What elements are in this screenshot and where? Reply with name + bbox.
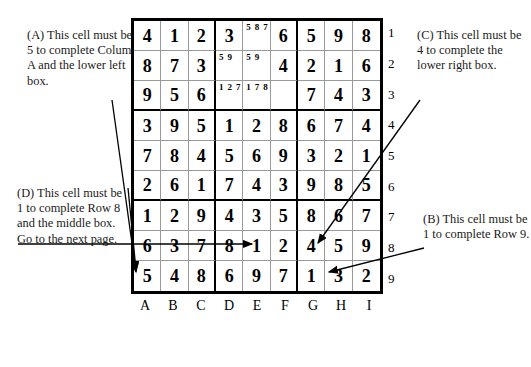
- sudoku-cell-A5[interactable]: 7: [134, 141, 161, 171]
- sudoku-cell-G7[interactable]: 8: [298, 201, 325, 231]
- sudoku-cell-F5[interactable]: 9: [271, 141, 298, 171]
- sudoku-cell-F2[interactable]: 4: [271, 51, 298, 81]
- sudoku-cell-B9[interactable]: 4: [161, 261, 188, 291]
- sudoku-cell-G9[interactable]: 1: [298, 261, 325, 291]
- sudoku-cell-E1[interactable]: 587: [243, 21, 270, 51]
- sudoku-cell-I4[interactable]: 4: [353, 111, 380, 141]
- sudoku-cell-H6[interactable]: 8: [325, 171, 352, 201]
- sudoku-cell-H1[interactable]: 9: [325, 21, 352, 51]
- sudoku-cell-D3[interactable]: 127: [216, 81, 243, 111]
- sudoku-cell-D8[interactable]: 8: [216, 231, 243, 261]
- sudoku-cell-E2[interactable]: 59: [243, 51, 270, 81]
- sudoku-cell-C7[interactable]: 9: [189, 201, 216, 231]
- sudoku-cell-E3[interactable]: 178: [243, 81, 270, 111]
- sudoku-cell-H7[interactable]: 6: [325, 201, 352, 231]
- sudoku-cell-E4[interactable]: 2: [243, 111, 270, 141]
- sudoku-cell-A8[interactable]: 6: [134, 231, 161, 261]
- sudoku-cell-E5[interactable]: 6: [243, 141, 270, 171]
- sudoku-cell-E7[interactable]: 3: [243, 201, 270, 231]
- sudoku-cell-D2[interactable]: 59: [216, 51, 243, 81]
- cell-value: 9: [362, 237, 371, 255]
- sudoku-cell-I5[interactable]: 1: [353, 141, 380, 171]
- candidate-list-D3: 127: [217, 81, 241, 109]
- sudoku-cell-E6[interactable]: 4: [243, 171, 270, 201]
- sudoku-cell-D9[interactable]: 6: [216, 261, 243, 291]
- sudoku-cell-E8[interactable]: 1: [243, 231, 270, 261]
- sudoku-cell-H5[interactable]: 2: [325, 141, 352, 171]
- cell-value: 2: [170, 207, 179, 225]
- cell-value: 6: [362, 57, 371, 75]
- sudoku-cell-G4[interactable]: 6: [298, 111, 325, 141]
- sudoku-cell-I3[interactable]: 3: [353, 81, 380, 111]
- sudoku-cell-A2[interactable]: 8: [134, 51, 161, 81]
- sudoku-cell-F8[interactable]: 2: [271, 231, 298, 261]
- sudoku-cell-C5[interactable]: 4: [189, 141, 216, 171]
- sudoku-cell-G3[interactable]: 7: [298, 81, 325, 111]
- sudoku-cell-C1[interactable]: 2: [189, 21, 216, 51]
- cell-value: 5: [197, 117, 206, 135]
- sudoku-cell-C9[interactable]: 8: [189, 261, 216, 291]
- sudoku-cell-B1[interactable]: 1: [161, 21, 188, 51]
- sudoku-cell-A3[interactable]: 9: [134, 81, 161, 111]
- cell-value: 7: [334, 117, 343, 135]
- sudoku-cell-A6[interactable]: 2: [134, 171, 161, 201]
- sudoku-cell-I8[interactable]: 9: [353, 231, 380, 261]
- sudoku-cell-F6[interactable]: 3: [271, 171, 298, 201]
- sudoku-cell-A9[interactable]: 5: [134, 261, 161, 291]
- sudoku-cell-B4[interactable]: 9: [161, 111, 188, 141]
- sudoku-cell-C6[interactable]: 1: [189, 171, 216, 201]
- cell-value: 8: [225, 237, 234, 255]
- sudoku-cell-B2[interactable]: 7: [161, 51, 188, 81]
- sudoku-cell-F7[interactable]: 5: [271, 201, 298, 231]
- sudoku-cell-H9[interactable]: 3: [325, 261, 352, 291]
- sudoku-cell-F1[interactable]: 6: [271, 21, 298, 51]
- sudoku-cell-A4[interactable]: 3: [134, 111, 161, 141]
- cell-value: 1: [334, 57, 343, 75]
- cell-value: 4: [225, 207, 234, 225]
- cell-value: 3: [252, 207, 261, 225]
- sudoku-cell-H8[interactable]: 5: [325, 231, 352, 261]
- sudoku-cell-I2[interactable]: 6: [353, 51, 380, 81]
- sudoku-cell-C8[interactable]: 7: [189, 231, 216, 261]
- sudoku-cell-H3[interactable]: 4: [325, 81, 352, 111]
- sudoku-cell-I7[interactable]: 7: [353, 201, 380, 231]
- sudoku-cell-C3[interactable]: 6: [189, 81, 216, 111]
- sudoku-cell-G5[interactable]: 3: [298, 141, 325, 171]
- column-labels: ABCDEFGHI: [131, 298, 383, 318]
- sudoku-cell-C2[interactable]: 3: [189, 51, 216, 81]
- sudoku-cell-G8[interactable]: 4: [298, 231, 325, 261]
- sudoku-cell-H2[interactable]: 1: [325, 51, 352, 81]
- cell-value: 5: [334, 237, 343, 255]
- sudoku-cell-I9[interactable]: 2: [353, 261, 380, 291]
- cell-value: 4: [197, 147, 206, 165]
- sudoku-cell-E9[interactable]: 9: [243, 261, 270, 291]
- cell-value: 6: [143, 237, 152, 255]
- sudoku-cell-I6[interactable]: 5: [353, 171, 380, 201]
- sudoku-cell-F3[interactable]: [271, 81, 298, 111]
- sudoku-cell-B6[interactable]: 6: [161, 171, 188, 201]
- sudoku-cell-D6[interactable]: 7: [216, 171, 243, 201]
- sudoku-cell-A7[interactable]: 1: [134, 201, 161, 231]
- sudoku-cell-F4[interactable]: 8: [271, 111, 298, 141]
- sudoku-cell-D5[interactable]: 5: [216, 141, 243, 171]
- sudoku-cell-A1[interactable]: 4: [134, 21, 161, 51]
- cell-value: 3: [225, 27, 234, 45]
- candidate-mark: 5: [246, 22, 251, 32]
- sudoku-cell-G6[interactable]: 9: [298, 171, 325, 201]
- candidate-mark: 2: [228, 82, 233, 92]
- sudoku-cell-B3[interactable]: 5: [161, 81, 188, 111]
- sudoku-cell-G2[interactable]: 2: [298, 51, 325, 81]
- sudoku-cell-B8[interactable]: 3: [161, 231, 188, 261]
- sudoku-cell-F9[interactable]: 7: [271, 261, 298, 291]
- sudoku-cell-B5[interactable]: 8: [161, 141, 188, 171]
- sudoku-cell-C4[interactable]: 5: [189, 111, 216, 141]
- sudoku-cell-D4[interactable]: 1: [216, 111, 243, 141]
- sudoku-cell-G1[interactable]: 5: [298, 21, 325, 51]
- cell-value: 6: [225, 267, 234, 285]
- sudoku-cell-I1[interactable]: 8: [353, 21, 380, 51]
- sudoku-cell-D7[interactable]: 4: [216, 201, 243, 231]
- candidate-mark: 5: [246, 52, 251, 62]
- sudoku-cell-D1[interactable]: 3: [216, 21, 243, 51]
- sudoku-cell-B7[interactable]: 2: [161, 201, 188, 231]
- sudoku-cell-H4[interactable]: 7: [325, 111, 352, 141]
